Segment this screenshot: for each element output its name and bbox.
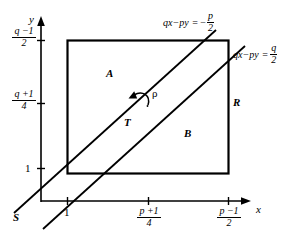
upper-line-equation: qx−py = − p 2 xyxy=(163,11,214,34)
geometry-figure: q −1 2 q +1 4 1 y 1 p +1 4 p −1 2 x qx−p… xyxy=(0,0,293,246)
y-tick-label-1: 1 xyxy=(25,163,31,174)
region-a-label: A xyxy=(106,68,113,79)
y-tick-label-q-plus-1-over-4: q +1 4 xyxy=(12,89,36,112)
region-b-label: B xyxy=(184,128,191,139)
rectangle-r-label: R xyxy=(233,97,240,108)
x-tick-label-1: 1 xyxy=(64,207,70,218)
x-tick-label-p-plus-1-over-4: p +1 4 xyxy=(137,206,161,229)
point-s-label: S xyxy=(13,212,19,223)
y-tick-label-q-minus-1-over-2: q −1 2 xyxy=(12,26,36,49)
strip-t-label: T xyxy=(124,117,131,128)
lower-line-equation: qx−py = q 2 xyxy=(233,43,277,66)
y-axis xyxy=(37,16,45,202)
y-axis-label: y xyxy=(29,14,34,25)
x-axis-label: x xyxy=(256,204,261,215)
x-axis xyxy=(41,197,251,205)
x-tick-label-p-minus-1-over-2: p −1 2 xyxy=(217,206,241,229)
rectangle-r-shape xyxy=(68,41,229,174)
rho-label: ρ xyxy=(152,88,158,99)
upper-line-shape xyxy=(14,30,216,213)
